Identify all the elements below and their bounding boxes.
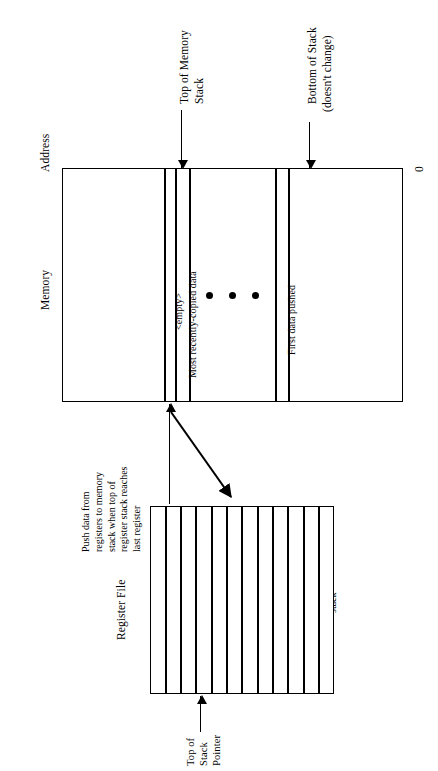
register-cell-divider-2 bbox=[180, 506, 182, 694]
top-of-stack-pointer-label-1: Top of bbox=[185, 738, 197, 766]
pop-arrow-line bbox=[171, 412, 231, 497]
register-cell-divider-5 bbox=[226, 506, 228, 694]
top-of-stack-pointer-line3: Pointer bbox=[211, 735, 222, 766]
register-cell-divider-3 bbox=[195, 506, 197, 694]
top-of-stack-pointer-arrow bbox=[200, 696, 201, 732]
register-cell-divider-4 bbox=[211, 506, 213, 694]
register-cell-divider-7 bbox=[257, 506, 259, 694]
top-of-stack-pointer-label-2: Stack bbox=[198, 742, 210, 766]
register-cell-divider-9 bbox=[287, 506, 289, 694]
top-of-stack-pointer-label-3: Pointer bbox=[211, 735, 223, 766]
top-of-stack-pointer-line2: Stack bbox=[198, 742, 209, 766]
register-cell-divider-1 bbox=[165, 506, 167, 694]
register-file-axis-label: Register File bbox=[115, 580, 128, 640]
register-cell-divider-8 bbox=[272, 506, 274, 694]
register-cell-divider-6 bbox=[241, 506, 243, 694]
diagram-canvas: Top of Memory Stack Bottom of Stack (doe… bbox=[0, 0, 438, 771]
register-cell-divider-10 bbox=[303, 506, 305, 694]
top-of-stack-pointer-line1: Top of bbox=[185, 738, 196, 766]
register-cell-divider-11 bbox=[318, 506, 320, 694]
register-file-axis-text: Register File bbox=[115, 580, 127, 640]
